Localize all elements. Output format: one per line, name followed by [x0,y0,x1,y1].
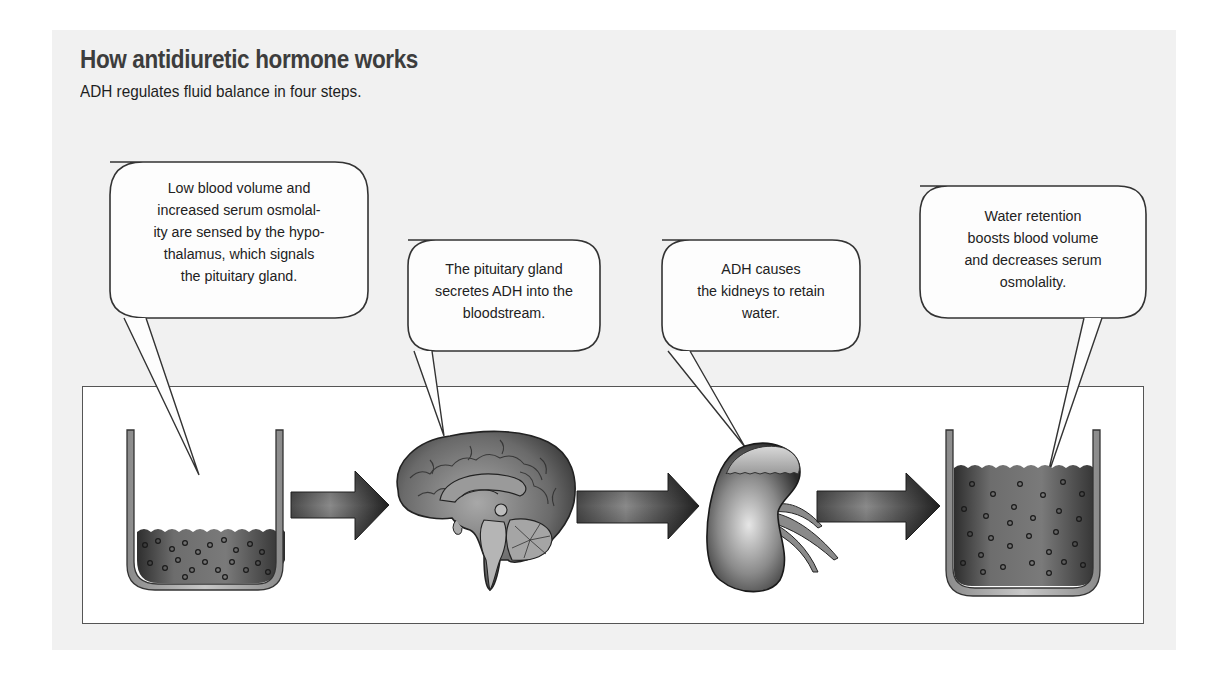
arrow-right-icon [577,473,699,539]
step-2-line: The pituitary gland [418,258,591,280]
step-4-line: Water retention [931,205,1135,227]
step-2-line: bloodstream. [418,302,591,324]
step-1-line: the pituitary gland. [122,265,356,287]
step-4-line: boosts blood volume [931,227,1135,249]
step-2-text: The pituitary gland secretes ADH into th… [418,258,591,324]
step-2-line: secretes ADH into the [418,280,591,302]
step-3-line: water. [672,302,850,324]
step-4-line: and decreases serum [931,249,1135,271]
step-1-line: thalamus, which signals [122,243,356,265]
brain-icon [397,431,575,590]
step-3-text: ADH causes the kidneys to retain water. [672,258,850,324]
step-1-text: Low blood volume and increased serum osm… [122,177,356,287]
step-4-text: Water retention boosts blood volume and … [931,205,1135,293]
diagram-artwork [0,0,1218,688]
beaker-low-fluid-icon [127,430,285,590]
step-3-line: ADH causes [672,258,850,280]
arrow-right-icon [817,473,940,540]
arrow-right-icon [291,471,389,540]
step-4-line: osmolality. [931,271,1135,293]
beaker-high-fluid-icon [946,430,1100,596]
step-3-line: the kidneys to retain [672,280,850,302]
step-1-line: increased serum osmolal- [122,199,356,221]
step-1-line: Low blood volume and [122,177,356,199]
step-1-line: ity are sensed by the hypo- [122,221,356,243]
